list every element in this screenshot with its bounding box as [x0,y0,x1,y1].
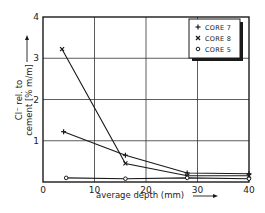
chart-canvas: 1234 010203040 CORE 7CORE 8CORE 5 Cl⁻ re… [0,0,265,213]
y-axis-label: Cl⁻ rel. to cement [% m/m] [14,35,34,136]
y-label-line1: Cl⁻ rel. to [14,80,24,120]
series-core-8 [60,47,251,178]
y-label-line2: cement [% m/m] [24,64,34,136]
data-series [60,47,251,180]
y-tick-label: 2 [33,95,39,105]
y-tick-label: 3 [33,53,39,63]
y-tick-label: 4 [33,12,39,22]
series-core-5 [64,176,250,180]
y-tick-label: 1 [33,136,39,146]
y-axis-ticks: 1234 [33,12,39,146]
legend-label: CORE 8 [205,35,231,43]
x-tick-label: 0 [40,185,46,195]
legend-label: CORE 7 [205,24,231,32]
x-tick-label: 30 [192,185,204,195]
x-tick-label: 40 [243,185,255,195]
x-axis-label: average depth (mm) [96,190,184,200]
legend-label: CORE 5 [205,46,231,54]
x-arrow-head-icon [213,194,218,198]
y-arrow-head-icon [25,35,29,40]
legend: CORE 7CORE 8CORE 5 [189,19,243,61]
